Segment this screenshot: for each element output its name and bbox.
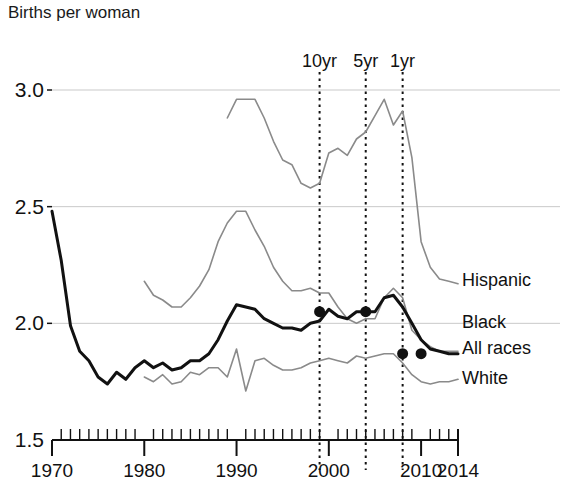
x-tick-label-2000: 2000	[303, 461, 355, 480]
x-tick-label-1980: 1980	[118, 461, 170, 480]
y-tick-label-2.5: 2.5	[0, 196, 44, 217]
marker-dots	[314, 306, 427, 359]
annotation-label-10yr: 10yr	[294, 52, 346, 70]
series-line-hispanic	[227, 99, 458, 283]
births-per-woman-chart: Births per woman 1.52.02.53.0 1970198019…	[0, 0, 564, 492]
y-tick-label-3.0: 3.0	[0, 79, 44, 100]
series-label-black: Black	[462, 313, 506, 331]
annotation-label-1yr: 1yr	[377, 52, 429, 70]
marker-dot	[314, 306, 325, 317]
plot-area	[0, 0, 564, 492]
x-axis	[47, 90, 458, 456]
series-lines	[52, 99, 458, 391]
series-label-hispanic: Hispanic	[462, 271, 531, 289]
marker-dot	[416, 348, 427, 359]
x-tick-label-1990: 1990	[211, 461, 263, 480]
y-tick-label-1.5: 1.5	[0, 429, 44, 450]
marker-dot	[397, 348, 408, 359]
series-label-all-races: All races	[462, 339, 531, 357]
y-tick-label-2.0: 2.0	[0, 312, 44, 333]
series-line-white	[144, 349, 458, 391]
series-label-white: White	[462, 369, 508, 387]
x-tick-label-2014: 2014	[432, 461, 484, 480]
annotation-lines	[320, 72, 403, 470]
marker-dot	[360, 306, 371, 317]
x-tick-label-1970: 1970	[26, 461, 78, 480]
